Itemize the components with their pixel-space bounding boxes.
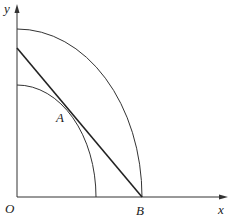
line-segment-ab — [17, 48, 142, 197]
x-axis-arrow-icon — [219, 195, 228, 200]
inner-arc — [17, 85, 96, 197]
x-axis-label: x — [217, 202, 224, 217]
diagram-canvas: y x O A B — [0, 0, 234, 219]
point-a-label: A — [55, 110, 64, 125]
origin-label: O — [5, 201, 15, 216]
outer-arc — [17, 29, 142, 197]
y-axis-arrow-icon — [15, 4, 20, 13]
point-b-label: B — [136, 203, 144, 218]
y-axis-label: y — [2, 1, 10, 16]
